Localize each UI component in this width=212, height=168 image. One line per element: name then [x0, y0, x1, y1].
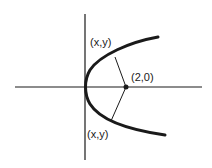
upper-focal-segment [115, 57, 126, 87]
parabola-diagram: (x,y) (2,0) (x,y) [0, 0, 212, 168]
lower-point-label: (x,y) [87, 128, 108, 140]
focus-point [124, 85, 129, 90]
lower-focal-segment [111, 87, 126, 121]
focus-label: (2,0) [131, 71, 154, 83]
upper-point-label: (x,y) [90, 36, 111, 48]
